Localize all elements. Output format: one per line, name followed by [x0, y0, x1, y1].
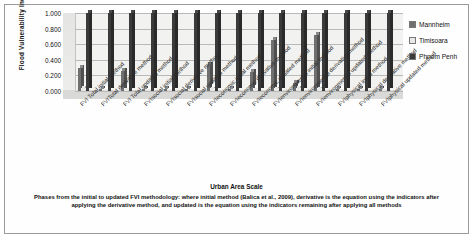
- bar: [82, 86, 85, 91]
- chart-side-wall: [63, 13, 75, 91]
- bar-top: [80, 65, 83, 68]
- bar-top: [131, 10, 134, 13]
- bar: [383, 89, 386, 91]
- x-axis-title: Urban Area Scale: [5, 183, 468, 190]
- bar-top: [152, 10, 155, 13]
- legend-swatch: [409, 37, 416, 44]
- y-tick-label: 0.800: [45, 25, 61, 32]
- legend-item: Timisoara: [409, 37, 469, 44]
- chart-area: Flood Vulnerability Index Value 0.0000.2…: [5, 5, 470, 165]
- bar-face: [254, 88, 257, 91]
- bar-face: [125, 88, 128, 91]
- bar-face: [297, 86, 300, 91]
- bar-top: [324, 10, 327, 13]
- legend-swatch: [409, 21, 416, 28]
- y-tick-label: 0.600: [45, 41, 61, 48]
- bar-face: [82, 86, 85, 91]
- bar: [275, 87, 278, 91]
- bar: [297, 86, 300, 91]
- legend-item: Mannheim: [409, 21, 469, 28]
- bar-top: [316, 32, 319, 35]
- bar: [254, 88, 257, 91]
- bar-face: [104, 89, 107, 91]
- bar: [86, 13, 89, 91]
- bar-face: [168, 89, 171, 91]
- bar-top: [109, 10, 112, 13]
- bar-top: [122, 68, 125, 71]
- legend-swatch: [409, 53, 416, 60]
- bar: [104, 89, 107, 91]
- bar-top: [281, 10, 284, 13]
- bar: [147, 89, 150, 91]
- bar: [361, 89, 364, 91]
- figure-caption: Phases from the initial to updated FVI m…: [31, 193, 442, 209]
- bar-top: [174, 10, 177, 13]
- bar: [168, 89, 171, 91]
- bar-face: [275, 87, 278, 91]
- bar-top: [345, 10, 348, 13]
- y-tick-label: 0.200: [45, 72, 61, 79]
- bar-face: [147, 89, 150, 91]
- bar-face: [340, 89, 343, 91]
- legend-label: Timisoara: [419, 37, 448, 44]
- legend-label: Phnom Penh: [419, 53, 457, 60]
- figure-frame: Flood Vulnerability Index Value 0.0000.2…: [4, 4, 469, 234]
- bar-face: [383, 89, 386, 91]
- bar-face: [232, 89, 235, 91]
- bar-face: [78, 68, 81, 91]
- bar-top: [302, 10, 305, 13]
- bar-top: [259, 10, 262, 13]
- bar: [189, 89, 192, 91]
- bar: [78, 68, 81, 91]
- bar: [125, 88, 128, 91]
- y-tick-label: 1.000: [45, 10, 61, 17]
- bar-top: [388, 10, 391, 13]
- bar: [211, 87, 214, 91]
- bar: [318, 87, 321, 91]
- bar-face: [86, 13, 89, 91]
- bar-face: [361, 89, 364, 91]
- bar: [340, 89, 343, 91]
- bar-top: [217, 10, 220, 13]
- bar-top: [238, 10, 241, 13]
- bar-face: [318, 87, 321, 91]
- bar-top: [195, 10, 198, 13]
- bar-face: [211, 87, 214, 91]
- legend-item: Phnom Penh: [409, 53, 469, 60]
- bar-face: [189, 89, 192, 91]
- bar-top: [88, 10, 91, 13]
- x-axis-tick-labels: FVI Total initial methodFVITotal derivat…: [63, 101, 463, 181]
- bar-top: [273, 37, 276, 40]
- y-tick-label: 0.400: [45, 56, 61, 63]
- y-axis-tick-labels: 0.0000.2000.4000.6000.8001.000: [27, 13, 61, 99]
- y-tick-label: 0.000: [45, 88, 61, 95]
- bar-side: [89, 10, 92, 88]
- bar: [232, 89, 235, 91]
- legend-label: Mannheim: [419, 21, 450, 28]
- chart-legend: MannheimTimisoaraPhnom Penh: [409, 21, 469, 69]
- bar-top: [251, 69, 254, 72]
- bar-top: [367, 10, 370, 13]
